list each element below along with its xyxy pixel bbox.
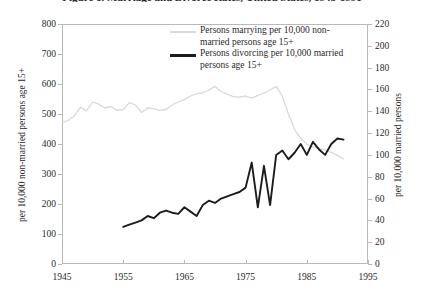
tick-mark bbox=[368, 260, 369, 264]
tick-mark bbox=[62, 260, 63, 264]
tick-mark bbox=[123, 260, 124, 264]
series-line-marrying bbox=[62, 86, 344, 159]
y-right-tick-label: 200 bbox=[375, 41, 409, 51]
y-left-tick-label: 400 bbox=[22, 139, 56, 149]
tick-mark bbox=[58, 24, 62, 25]
tick-mark bbox=[58, 144, 62, 145]
y-left-tick-label: 500 bbox=[22, 109, 56, 119]
tick-mark bbox=[58, 264, 62, 265]
y-right-tick-label: 120 bbox=[375, 128, 409, 138]
tick-mark bbox=[184, 260, 185, 264]
tick-mark bbox=[58, 54, 62, 55]
legend-label-marrying: Persons marrying per 10,000 non-married … bbox=[200, 25, 355, 48]
legend-label-divorcing: Persons divorcing per 10,000 married per… bbox=[200, 48, 355, 71]
x-tick-label: 1975 bbox=[226, 272, 266, 282]
tick-mark bbox=[307, 260, 308, 264]
legend-item-divorcing: Persons divorcing per 10,000 married per… bbox=[170, 48, 355, 71]
y-right-tick-label: 60 bbox=[375, 194, 409, 204]
legend-line-gray-icon bbox=[170, 31, 196, 33]
tick-mark bbox=[58, 174, 62, 175]
tick-mark bbox=[368, 155, 372, 156]
tick-mark bbox=[368, 68, 372, 69]
chart-container: Figure 1. Marriage and Divorce Rates, Un… bbox=[0, 0, 424, 298]
tick-mark bbox=[58, 234, 62, 235]
y-right-tick-label: 160 bbox=[375, 84, 409, 94]
y-left-tick-label: 200 bbox=[22, 199, 56, 209]
y-right-tick-label: 100 bbox=[375, 150, 409, 160]
tick-mark bbox=[368, 46, 372, 47]
series-line-divorcing bbox=[123, 139, 343, 227]
tick-mark bbox=[368, 177, 372, 178]
y-right-tick-label: 140 bbox=[375, 106, 409, 116]
tick-mark bbox=[368, 89, 372, 90]
x-tick-label: 1945 bbox=[42, 272, 82, 282]
chart-legend: Persons marrying per 10,000 non-married … bbox=[170, 25, 355, 71]
y-right-tick-label: 220 bbox=[375, 19, 409, 29]
y-left-tick-label: 600 bbox=[22, 79, 56, 89]
y-left-tick-label: 300 bbox=[22, 169, 56, 179]
x-tick-label: 1955 bbox=[103, 272, 143, 282]
legend-line-black-icon bbox=[170, 54, 196, 57]
chart-title: Figure 1. Marriage and Divorce Rates, Un… bbox=[62, 0, 362, 2]
tick-mark bbox=[368, 264, 372, 265]
y-right-tick-label: 20 bbox=[375, 237, 409, 247]
y-left-tick-label: 100 bbox=[22, 229, 56, 239]
y-right-tick-label: 80 bbox=[375, 172, 409, 182]
y-right-tick-label: 180 bbox=[375, 63, 409, 73]
x-tick-label: 1985 bbox=[287, 272, 327, 282]
y-right-tick-label: 40 bbox=[375, 215, 409, 225]
y-left-tick-label: 0 bbox=[22, 259, 56, 269]
y-axis-right-title: per 10,000 married persons bbox=[393, 60, 403, 230]
tick-mark bbox=[368, 242, 372, 243]
legend-item-marrying: Persons marrying per 10,000 non-married … bbox=[170, 25, 355, 48]
y-left-tick-label: 700 bbox=[22, 49, 56, 59]
tick-mark bbox=[58, 204, 62, 205]
y-left-tick-label: 800 bbox=[22, 19, 56, 29]
tick-mark bbox=[368, 199, 372, 200]
tick-mark bbox=[58, 84, 62, 85]
tick-mark bbox=[368, 24, 372, 25]
tick-mark bbox=[368, 111, 372, 112]
tick-mark bbox=[246, 260, 247, 264]
x-tick-label: 1995 bbox=[348, 272, 388, 282]
tick-mark bbox=[58, 114, 62, 115]
y-right-tick-label: 0 bbox=[375, 259, 409, 269]
tick-mark bbox=[368, 133, 372, 134]
y-axis-left-title: per 10,000 non-married persons age 15+ bbox=[17, 60, 27, 230]
x-tick-label: 1965 bbox=[164, 272, 204, 282]
tick-mark bbox=[368, 220, 372, 221]
